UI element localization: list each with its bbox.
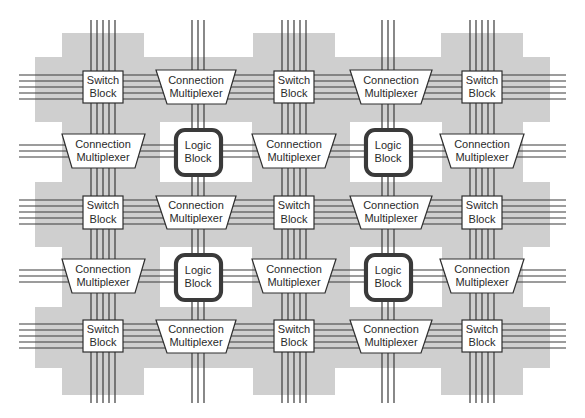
logic-block-label-line1: Logic	[375, 139, 402, 151]
switch-block-label-line1: Switch	[87, 199, 119, 211]
mux-label-line2: Multiplexer	[169, 87, 223, 99]
mux-label-line2: Multiplexer	[364, 87, 418, 99]
logic-block: Logic Block	[176, 255, 221, 300]
switch-block-label-line2: Block	[281, 87, 308, 99]
mux-label-line2: Multiplexer	[169, 336, 223, 348]
switch-block-label-line1: Switch	[278, 199, 310, 211]
mux-label-line2: Multiplexer	[169, 212, 223, 224]
switch-block-label-line2: Block	[281, 336, 308, 348]
mux-label-line1: Connection	[168, 74, 224, 86]
logic-block-label-line2: Block	[375, 277, 402, 289]
logic-block-label-line2: Block	[185, 152, 212, 164]
mux-label-line1: Connection	[454, 138, 510, 150]
connection-multiplexer: Connection Multiplexer	[440, 259, 524, 293]
mux-label-line1: Connection	[168, 199, 224, 211]
switch-block: Switch Block	[462, 71, 502, 103]
connection-multiplexer: Connection Multiplexer	[252, 259, 336, 293]
mux-label-line2: Multiplexer	[76, 276, 130, 288]
mux-label-line1: Connection	[75, 263, 131, 275]
connection-multiplexer: Connection Multiplexer	[350, 320, 432, 353]
switch-block-label-line2: Block	[90, 87, 117, 99]
logic-block-label-line2: Block	[375, 152, 402, 164]
connection-multiplexer: Connection Multiplexer	[350, 70, 432, 104]
connection-multiplexer: Connection Multiplexer	[252, 134, 336, 168]
connection-multiplexer: Connection Multiplexer	[156, 70, 236, 104]
connection-multiplexer: Connection Multiplexer	[156, 196, 236, 229]
switch-block-label-line1: Switch	[466, 199, 498, 211]
mux-label-line1: Connection	[363, 74, 419, 86]
switch-block-label-line1: Switch	[87, 74, 119, 86]
mux-label-line1: Connection	[75, 138, 131, 150]
switch-block: Switch Block	[83, 196, 123, 229]
switch-block: Switch Block	[274, 320, 314, 352]
logic-block: Logic Block	[366, 130, 411, 175]
mux-label-line1: Connection	[363, 199, 419, 211]
logic-block-label-line1: Logic	[185, 139, 212, 151]
switch-block-label-line1: Switch	[466, 74, 498, 86]
mux-label-line2: Multiplexer	[267, 151, 321, 163]
logic-block-label-line1: Logic	[185, 264, 212, 276]
mux-label-line2: Multiplexer	[364, 212, 418, 224]
connection-multiplexer: Connection Multiplexer	[440, 134, 524, 168]
switch-block-label-line2: Block	[281, 213, 308, 225]
mux-label-line1: Connection	[454, 263, 510, 275]
switch-block-label-line2: Block	[90, 336, 117, 348]
logic-block: Logic Block	[366, 255, 411, 300]
switch-block-label-line1: Switch	[87, 323, 119, 335]
mux-label-line1: Connection	[266, 263, 322, 275]
connection-multiplexer: Connection Multiplexer	[62, 259, 145, 293]
switch-block: Switch Block	[83, 320, 123, 352]
switch-block: Switch Block	[83, 71, 123, 103]
mux-label-line1: Connection	[168, 323, 224, 335]
switch-block-label-line2: Block	[90, 213, 117, 225]
mux-label-line2: Multiplexer	[364, 336, 418, 348]
switch-block-label-line1: Switch	[278, 74, 310, 86]
logic-block: Logic Block	[176, 130, 221, 175]
mux-label-line2: Multiplexer	[455, 276, 509, 288]
switch-block-label-line1: Switch	[466, 323, 498, 335]
connection-multiplexer: Connection Multiplexer	[156, 320, 236, 353]
switch-block: Switch Block	[274, 196, 314, 229]
switch-block: Switch Block	[462, 320, 502, 352]
fpga-routing-diagram: Switch Block Switch Block Switch Block S…	[0, 0, 585, 418]
switch-block-label-line1: Switch	[278, 323, 310, 335]
connection-multiplexer: Connection Multiplexer	[62, 134, 145, 168]
logic-block-label-line2: Block	[185, 277, 212, 289]
mux-label-line2: Multiplexer	[76, 151, 130, 163]
connection-multiplexer: Connection Multiplexer	[350, 196, 432, 229]
switch-block-label-line2: Block	[469, 87, 496, 99]
mux-label-line1: Connection	[266, 138, 322, 150]
switch-block: Switch Block	[274, 71, 314, 103]
mux-label-line2: Multiplexer	[267, 276, 321, 288]
mux-label-line2: Multiplexer	[455, 151, 509, 163]
switch-block-label-line2: Block	[469, 336, 496, 348]
switch-block: Switch Block	[462, 196, 502, 229]
mux-label-line1: Connection	[363, 323, 419, 335]
logic-block-label-line1: Logic	[375, 264, 402, 276]
switch-block-label-line2: Block	[469, 213, 496, 225]
